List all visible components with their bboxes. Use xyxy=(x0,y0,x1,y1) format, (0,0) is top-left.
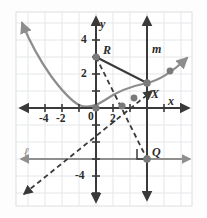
graph-figure: y x 0 -4 -2 2 4 2 -4 R X Q m ℓ xyxy=(0,0,207,218)
point-label-r: R xyxy=(103,44,111,56)
point-intersection xyxy=(118,102,125,109)
line-label-m: m xyxy=(152,43,161,55)
x-tick-label--2: -2 xyxy=(56,113,66,125)
line-label-l: ℓ xyxy=(24,146,29,158)
coordinate-plane-svg xyxy=(0,0,207,218)
x-axis-label: x xyxy=(168,95,174,107)
point-curve-upper xyxy=(167,68,174,75)
point-q xyxy=(143,155,151,163)
y-tick-label--4: -4 xyxy=(75,170,85,182)
y-axis-label: y xyxy=(100,18,105,30)
point-r xyxy=(92,53,99,60)
origin-tick-label: 0 xyxy=(88,111,94,123)
x-tick-label-2: 2 xyxy=(110,113,116,125)
y-tick-label-2: 2 xyxy=(81,68,87,80)
point-x xyxy=(143,79,151,87)
point-label-x: X xyxy=(151,88,159,100)
x-tick-label--4: -4 xyxy=(39,113,49,125)
point-curve-mid xyxy=(131,95,138,102)
y-tick-label-4: 4 xyxy=(81,34,87,46)
point-label-q: Q xyxy=(152,146,161,158)
